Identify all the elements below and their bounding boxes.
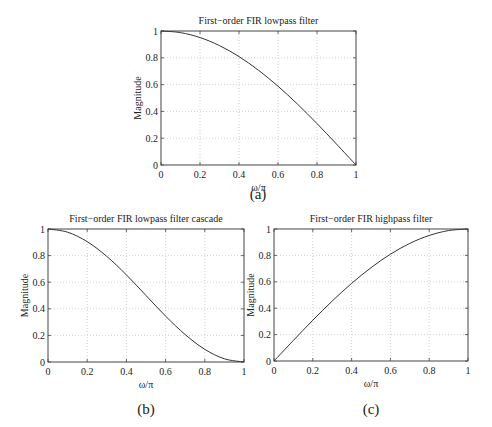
y-axis-label: Magnitude [245, 273, 256, 317]
x-tick-label: 0 [46, 366, 51, 377]
figure-canvas: 00.20.40.60.8100.20.40.60.81First−order … [0, 0, 492, 427]
chart-title: First−order FIR lowpass filter cascade [69, 213, 223, 224]
x-tick-label: 0.4 [345, 365, 358, 376]
chart-title: First−order FIR highpass filter [310, 213, 433, 224]
x-tick-label: 0.2 [194, 169, 207, 180]
y-tick-label: 0.4 [259, 303, 272, 314]
y-tick-label: 0 [266, 356, 271, 367]
chart-a: 00.20.40.60.8100.20.40.60.81First−order … [132, 15, 359, 193]
x-axis-label: ω/π [139, 379, 153, 390]
y-tick-label: 0.2 [33, 330, 46, 341]
y-tick-label: 0.6 [33, 277, 46, 288]
y-tick-label: 0.8 [146, 52, 159, 63]
y-axis-label: Magnitude [132, 76, 143, 120]
caption-b: (b) [126, 401, 166, 418]
y-tick-label: 0.6 [146, 79, 159, 90]
y-axis-label: Magnitude [19, 273, 30, 317]
axes-frame [274, 229, 468, 361]
y-tick-label: 1 [153, 26, 158, 37]
axes-frame [161, 31, 356, 165]
x-tick-label: 0.8 [311, 169, 324, 180]
x-axis-label: ω/π [364, 378, 378, 389]
x-tick-label: 0 [159, 169, 164, 180]
chart-c: 00.20.40.60.8100.20.40.60.81First−order … [245, 213, 471, 389]
magnitude-curve [274, 229, 468, 361]
y-tick-label: 0.4 [33, 303, 46, 314]
y-tick-label: 0.8 [259, 250, 272, 261]
magnitude-curve [48, 229, 244, 362]
x-tick-label: 1 [242, 366, 247, 377]
y-tick-label: 1 [266, 224, 271, 235]
x-tick-label: 1 [466, 365, 471, 376]
x-tick-label: 0 [272, 365, 277, 376]
y-tick-label: 0.2 [259, 329, 272, 340]
y-tick-label: 0.2 [146, 133, 159, 144]
caption-a: (a) [238, 186, 278, 203]
x-tick-label: 0.2 [81, 366, 94, 377]
x-tick-label: 0.8 [423, 365, 436, 376]
x-tick-label: 0.6 [159, 366, 172, 377]
x-tick-label: 0.4 [233, 169, 246, 180]
chart-title: First−order FIR lowpass filter [199, 15, 319, 26]
x-tick-label: 0.6 [272, 169, 285, 180]
chart-b: 00.20.40.60.8100.20.40.60.81First−order … [19, 213, 247, 390]
y-tick-label: 0.6 [259, 276, 272, 287]
x-tick-label: 0.4 [120, 366, 133, 377]
y-tick-label: 0 [153, 160, 158, 171]
x-tick-label: 0.8 [199, 366, 212, 377]
x-tick-label: 0.2 [307, 365, 320, 376]
y-tick-label: 0 [40, 357, 45, 368]
y-tick-label: 1 [40, 224, 45, 235]
x-tick-label: 1 [354, 169, 359, 180]
y-tick-label: 0.4 [146, 106, 159, 117]
caption-c: (c) [351, 401, 391, 418]
x-tick-label: 0.6 [384, 365, 397, 376]
y-tick-label: 0.8 [33, 250, 46, 261]
magnitude-curve [161, 31, 356, 165]
